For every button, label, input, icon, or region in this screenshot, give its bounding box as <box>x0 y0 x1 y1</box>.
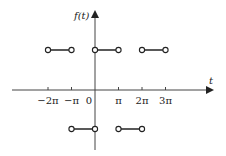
y-axis-label: f(t) <box>73 10 90 21</box>
open-endpoint-marker <box>139 126 144 131</box>
open-endpoint-marker <box>69 47 74 52</box>
open-endpoint-marker <box>163 47 168 52</box>
open-endpoint-marker <box>139 47 144 52</box>
x-tick-label: −2π <box>37 95 59 106</box>
open-endpoint-marker <box>116 126 121 131</box>
open-endpoint-marker <box>69 126 74 131</box>
x-tick-label: 3π <box>159 95 172 106</box>
x-tick-label: 0 <box>86 95 92 106</box>
open-endpoint-marker <box>116 47 121 52</box>
x-axis-label: t <box>209 75 214 86</box>
open-endpoint-marker <box>92 47 97 52</box>
x-tick-label: −π <box>64 95 79 106</box>
open-endpoint-marker <box>92 126 97 131</box>
x-tick-label: 2π <box>136 95 149 106</box>
piecewise-function-plot: −2π−π0π2π3π f(t) t <box>0 0 226 156</box>
open-endpoint-marker <box>45 47 50 52</box>
x-tick-label: π <box>115 95 122 106</box>
